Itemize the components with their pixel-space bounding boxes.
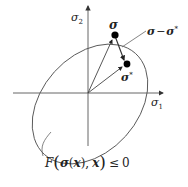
difference-leader-line xyxy=(122,31,146,47)
return-vector xyxy=(115,36,124,60)
projected-stress-label: σ* xyxy=(121,71,133,84)
trial-stress-vector xyxy=(88,40,112,93)
yield-surface-ellipse xyxy=(9,21,171,186)
projected-stress-point xyxy=(124,61,131,68)
sigma2-label: σ2 xyxy=(71,11,83,26)
sigma1-label: σ1 xyxy=(151,96,163,111)
yield-surface-diagram: σ2 σ1 σ σ* σ−σ* F(σ(x),x)≤0 xyxy=(0,0,188,187)
projected-stress-vector xyxy=(88,67,122,93)
difference-label: σ−σ* xyxy=(147,25,178,38)
yield-condition-label: F(σ(x),x)≤0 xyxy=(44,152,130,172)
trial-stress-label: σ xyxy=(109,18,118,32)
trial-stress-point xyxy=(111,31,118,38)
region-leader-curve xyxy=(42,132,51,156)
